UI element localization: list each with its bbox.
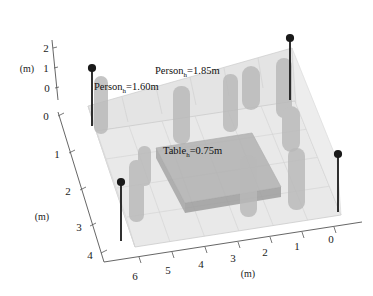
y-tick-1: 1: [54, 148, 60, 160]
x-tick-5: 5: [165, 264, 171, 276]
x-tick-0: 0: [328, 233, 334, 245]
annotation-person-tall-value: =1.85m: [187, 65, 219, 76]
annotation-table-value: =0.75m: [190, 145, 222, 156]
x-tick-4: 4: [198, 258, 204, 270]
x-tick-3: 3: [230, 252, 236, 264]
figure-3d-room-scene: 2 1 0 (m) 0 1 2 3 4 (m) 6 5 4 3 2 1 0 (m…: [0, 0, 373, 296]
person-cylinder: [240, 155, 257, 217]
annotation-person-tall-prefix: Person: [155, 65, 184, 76]
z-tick-2: 2: [43, 42, 49, 54]
y-tick-4: 4: [87, 249, 93, 261]
person-cylinder: [288, 148, 305, 210]
x-tick-6: 6: [132, 270, 138, 282]
person-cylinder: [282, 106, 300, 152]
person-cylinder: [223, 74, 238, 132]
z-tick-1: 1: [43, 62, 49, 74]
z-tick-0: 0: [44, 82, 50, 94]
person-cylinder: [138, 146, 151, 186]
person-cylinder: [242, 66, 260, 110]
y-tick-3: 3: [76, 221, 82, 233]
annotation-person-short-prefix: Person: [94, 81, 123, 92]
annotation-person-short-value: =1.60m: [126, 81, 158, 92]
x-tick-2: 2: [262, 246, 268, 258]
y-axis-unit-label: (m): [35, 211, 49, 223]
x-axis-unit-label: (m): [241, 268, 255, 280]
annotation-table-prefix: Table: [163, 145, 187, 156]
z-axis-tick-labels: 2 1 0 (m): [20, 42, 50, 94]
scene-canvas: 2 1 0 (m) 0 1 2 3 4 (m) 6 5 4 3 2 1 0 (m…: [0, 0, 373, 296]
y-tick-2: 2: [65, 185, 71, 197]
z-axis-unit-label: (m): [20, 63, 34, 75]
person-cylinder: [173, 86, 190, 144]
y-tick-0: 0: [43, 110, 49, 122]
z-axis-line: [52, 40, 58, 100]
x-tick-1: 1: [294, 240, 300, 252]
